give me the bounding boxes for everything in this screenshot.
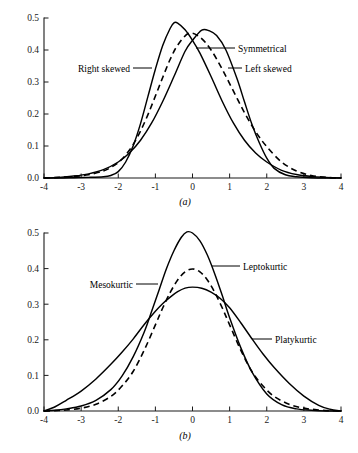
distribution-curve (44, 287, 341, 411)
x-tick-label: -3 (77, 182, 85, 192)
x-tick-label: -2 (114, 182, 122, 192)
x-tick-label: 0 (190, 415, 195, 425)
annotation-leptokurtic-b: Leptokurtic (212, 262, 287, 272)
x-tick-label: 1 (227, 415, 232, 425)
y-tick-label: 0.2 (27, 109, 39, 119)
annotation-label-leptokurtic: Leptokurtic (243, 262, 287, 272)
x-tick-label: 0 (190, 182, 195, 192)
x-tick-label: -2 (114, 415, 122, 425)
distribution-curve (44, 33, 341, 178)
annotation-label-platykurtic: Platykurtic (275, 335, 317, 345)
panel-caption-b: (b) (179, 430, 191, 442)
y-tick-label: 0.0 (27, 173, 39, 183)
x-tick-label: 3 (302, 182, 307, 192)
x-tick-labels-b: -4-3-2-101234 (40, 415, 344, 425)
annotation-symmetrical-a: Symmetrical (196, 44, 287, 54)
x-tick-label: 2 (264, 182, 269, 192)
y-tick-label: 0.2 (27, 335, 39, 345)
annotation-label-left-skewed: Left skewed (245, 64, 292, 74)
x-tick-label: -4 (40, 415, 48, 425)
y-tick-labels-b: 0.00.10.20.30.40.5 (27, 228, 39, 416)
statistics-figure: 0.00.10.20.30.40.5 -4-3-2-101234 Right s… (0, 0, 358, 453)
x-tick-label: 2 (264, 415, 269, 425)
x-tick-label: -1 (151, 182, 159, 192)
annotation-label-right-skewed: Right skewed (78, 64, 130, 74)
x-tick-label: -4 (40, 182, 48, 192)
y-axis-group-a: 0.00.10.20.30.40.5 (27, 13, 48, 183)
y-tick-label: 0.3 (27, 300, 39, 310)
annotation-mesokurtic-b: Mesokurtic (90, 280, 158, 290)
y-tick-label: 0.3 (27, 77, 39, 87)
annotation-right-skewed-a: Right skewed (78, 64, 152, 74)
y-tick-marks-b (44, 233, 49, 411)
distribution-curves-b (44, 232, 341, 411)
y-tick-label: 0.1 (27, 371, 39, 381)
skewness-chart-svg: 0.00.10.20.30.40.5 -4-3-2-101234 Right s… (0, 0, 358, 220)
y-axis-group-b: 0.00.10.20.30.40.5 (27, 228, 48, 416)
annotation-label-mesokurtic: Mesokurtic (90, 280, 133, 290)
y-tick-labels-a: 0.00.10.20.30.40.5 (27, 13, 39, 183)
distribution-curve (44, 29, 341, 178)
chart-panel-a: 0.00.10.20.30.40.5 -4-3-2-101234 Right s… (0, 0, 358, 220)
distribution-curve (44, 22, 341, 178)
y-tick-label: 0.4 (27, 264, 39, 274)
distribution-curves-a (44, 22, 341, 178)
x-tick-labels-a: -4-3-2-101234 (40, 182, 344, 192)
x-tick-label: -3 (77, 415, 85, 425)
annotation-label-symmetrical: Symmetrical (238, 44, 287, 54)
y-tick-label: 0.5 (27, 13, 39, 23)
x-tick-label: -1 (151, 415, 159, 425)
annotation-left-skewed-a: Left skewed (228, 64, 292, 74)
y-tick-label: 0.1 (27, 141, 39, 151)
x-tick-label: 3 (302, 415, 307, 425)
annotation-platykurtic-b: Platykurtic (252, 335, 317, 345)
x-tick-label: 4 (339, 415, 344, 425)
y-tick-label: 0.5 (27, 228, 39, 238)
chart-panel-b: 0.00.10.20.30.40.5 -4-3-2-101234 Leptoku… (0, 218, 358, 453)
x-tick-label: 1 (227, 182, 232, 192)
distribution-curve (44, 232, 341, 411)
y-tick-marks-a (44, 18, 49, 178)
x-tick-label: 4 (339, 182, 344, 192)
panel-caption-a: (a) (179, 196, 191, 208)
y-tick-label: 0.0 (27, 406, 39, 416)
y-tick-label: 0.4 (27, 45, 39, 55)
kurtosis-chart-svg: 0.00.10.20.30.40.5 -4-3-2-101234 Leptoku… (0, 218, 358, 453)
